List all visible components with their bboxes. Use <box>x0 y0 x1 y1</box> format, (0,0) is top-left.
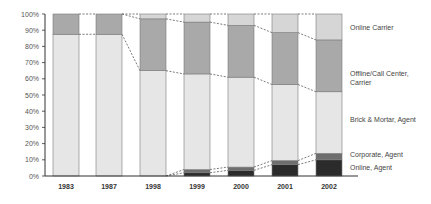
bar-segment <box>96 14 122 34</box>
bar-segment <box>272 165 298 176</box>
bar-segment <box>228 25 254 77</box>
bars <box>53 14 342 176</box>
y-tick-label: 40% <box>25 108 39 115</box>
connector-line <box>254 165 272 171</box>
x-tick-label: 1999 <box>189 183 205 190</box>
connector-line <box>298 33 316 40</box>
bar-segment <box>316 153 342 159</box>
connector-line <box>166 19 184 22</box>
legend-label: Corporate, Agent <box>350 151 403 159</box>
bar-segment <box>53 34 79 176</box>
y-tick-label: 90% <box>25 27 39 34</box>
bar-segment <box>228 170 254 176</box>
bar-segment <box>272 161 298 165</box>
bar-segment <box>96 34 122 176</box>
stacked-bar-chart: 0%10%20%30%40%50%60%70%80%90%100% 198319… <box>0 0 431 204</box>
connector-line <box>166 170 184 176</box>
bar-segment <box>316 92 342 154</box>
bar-segment <box>272 33 298 85</box>
legend-label: Carrier <box>350 79 372 86</box>
bar-segment <box>184 170 210 173</box>
x-tick-label: 2001 <box>277 183 293 190</box>
legend: Online CarrierOffline/Call Center,Carrie… <box>350 24 416 172</box>
y-tick-label: 80% <box>25 43 39 50</box>
y-axis: 0%10%20%30%40%50%60%70%80%90%100% <box>21 11 45 180</box>
connector-line <box>298 153 316 160</box>
connector-line <box>122 34 140 70</box>
connector-line <box>210 170 228 172</box>
legend-label: Offline/Call Center, <box>350 70 409 77</box>
connector-line <box>298 84 316 91</box>
bar-segment <box>184 22 210 74</box>
x-tick-label: 2002 <box>321 183 337 190</box>
bar-segment <box>316 40 342 92</box>
x-tick-label: 2000 <box>233 183 249 190</box>
bar-segment <box>272 14 298 33</box>
y-tick-label: 0% <box>29 173 39 180</box>
bar-segment <box>140 71 166 176</box>
y-tick-label: 100% <box>21 11 39 18</box>
bar-segment <box>53 14 79 34</box>
bar-segment <box>184 74 210 170</box>
x-tick-label: 1998 <box>145 183 161 190</box>
bar-segment <box>140 14 166 19</box>
connector-line <box>254 161 272 167</box>
y-tick-label: 60% <box>25 75 39 82</box>
y-tick-label: 30% <box>25 124 39 131</box>
x-axis: 1983198719981999200020012002 <box>45 176 358 190</box>
connector-line <box>298 160 316 165</box>
connector-line <box>210 167 228 169</box>
bar-segment <box>228 14 254 25</box>
bar-segment <box>316 160 342 176</box>
connector-line <box>254 77 272 84</box>
bar-segment <box>184 14 210 22</box>
y-tick-label: 20% <box>25 140 39 147</box>
connector-line <box>210 22 228 25</box>
legend-label: Online, Agent <box>350 164 392 172</box>
legend-label: Brick & Mortar, Agent <box>350 116 416 124</box>
y-tick-label: 50% <box>25 92 39 99</box>
x-tick-label: 1987 <box>101 183 117 190</box>
y-tick-label: 10% <box>25 156 39 163</box>
legend-label: Online Carrier <box>350 24 394 31</box>
x-tick-label: 1983 <box>58 183 74 190</box>
y-tick-label: 70% <box>25 59 39 66</box>
connector-line <box>122 14 140 19</box>
connector-line <box>166 71 184 74</box>
connector-line <box>210 74 228 77</box>
bar-segment <box>272 84 298 160</box>
bar-segment <box>228 167 254 170</box>
bar-segment <box>316 14 342 40</box>
bar-segment <box>140 19 166 71</box>
bar-segment <box>228 77 254 167</box>
connector-line <box>254 25 272 32</box>
